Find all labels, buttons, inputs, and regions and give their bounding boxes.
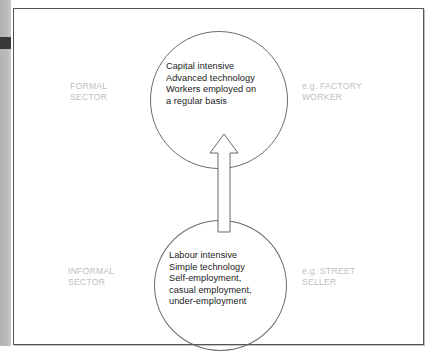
diagram-page: Capital intensive Advanced technology Wo… [0, 0, 437, 358]
label-informal-sector: INFORMAL SECTOR [68, 266, 148, 287]
label-example-street-seller: e.g. STREET SELLER [302, 266, 388, 287]
scan-edge-mark [0, 37, 11, 49]
circle-formal-sector-text: Capital intensive Advanced technology Wo… [166, 61, 294, 107]
label-example-factory-worker: e.g. FACTORY WORKER [302, 81, 388, 102]
figure-frame: Capital intensive Advanced technology Wo… [13, 8, 424, 345]
upward-arrow-icon [208, 132, 240, 234]
label-formal-sector: FORMAL SECTOR [70, 81, 142, 102]
circle-informal-sector-text: Labour intensive Simple technology Self-… [169, 250, 295, 308]
scan-edge-band [0, 0, 11, 346]
